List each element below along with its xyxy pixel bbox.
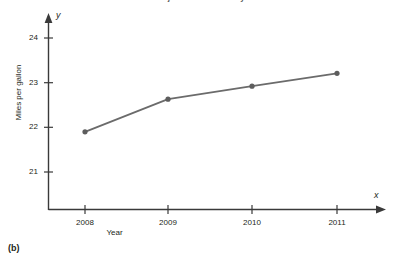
- x-tick-label-2010: 2010: [232, 218, 272, 227]
- x-tick-label-2011: 2011: [317, 218, 357, 227]
- x-tick-label-2008: 2008: [65, 218, 105, 227]
- x-axis-title: Year: [0, 228, 399, 237]
- y-tick-label-24: 24: [14, 33, 38, 42]
- data-series-line: [85, 73, 337, 132]
- y-axis: [45, 13, 53, 210]
- x-axis-variable-label: x: [374, 190, 379, 200]
- y-axis-variable-label: y: [56, 10, 61, 20]
- data-point-2011: [334, 71, 339, 76]
- data-point-2010: [249, 84, 254, 89]
- data-point-2009: [165, 97, 170, 102]
- y-tick-label-21: 21: [14, 167, 38, 176]
- x-axis: [49, 206, 387, 214]
- x-tick-label-2009: 2009: [148, 218, 188, 227]
- figure-panel-label: (b): [8, 243, 20, 253]
- y-axis-title: Miles per gallon: [14, 43, 23, 143]
- line-chart-figure: 21 22 23 24 2008 2009 2010 2011 y x Year…: [0, 0, 399, 263]
- x-axis-title-text: Year: [106, 228, 122, 237]
- data-point-2008: [82, 129, 87, 134]
- data-point-markers: [82, 71, 339, 135]
